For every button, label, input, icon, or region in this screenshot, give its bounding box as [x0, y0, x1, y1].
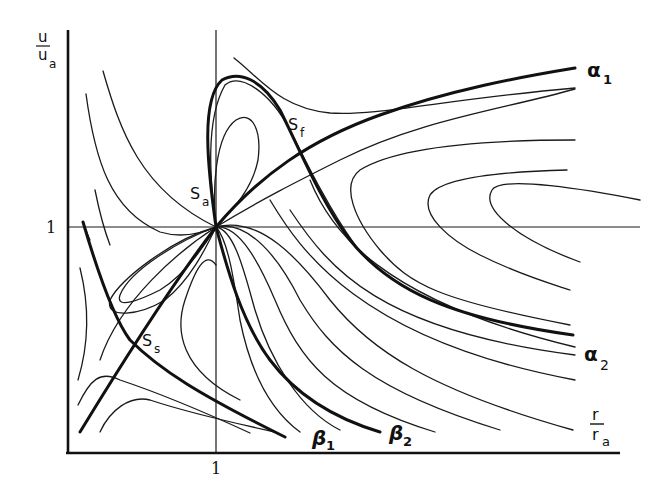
- solution-curve: [86, 94, 216, 235]
- reference-lines: [68, 30, 640, 453]
- y-axis-label-denominator: u: [38, 46, 48, 64]
- solution-curve: [216, 227, 340, 430]
- solution-curve: [103, 71, 216, 227]
- label-base: α: [587, 58, 601, 82]
- x-axis-label-numerator: r: [592, 405, 599, 424]
- x-tick-label-1: 1: [211, 459, 221, 478]
- solution-curve: [100, 227, 216, 360]
- solution-curve: [351, 140, 575, 325]
- label-subscript: 1: [603, 72, 612, 87]
- separatrices: [80, 68, 575, 437]
- label-base: β: [388, 421, 403, 445]
- label-base: β: [311, 426, 326, 450]
- curve-label-beta2: β 2: [388, 421, 412, 449]
- x-axis-label-denominator: r: [592, 425, 599, 444]
- label-subscript: f: [300, 126, 305, 140]
- separatrix-beta2: [216, 227, 380, 432]
- label-base: S: [142, 331, 152, 350]
- curve-label-alpha2: α 2: [584, 342, 609, 373]
- label-base: S: [288, 115, 298, 134]
- label-subscript: 2: [403, 434, 412, 449]
- solution-curve: [290, 210, 575, 355]
- critical-point-label-sa: S a: [190, 184, 209, 209]
- label-subscript: 2: [600, 357, 609, 373]
- separatrix-alpha1: [80, 68, 575, 432]
- x-axis-label-subscript: a: [602, 434, 610, 449]
- label-subscript: 1: [326, 438, 335, 453]
- solution-curve: [95, 190, 110, 245]
- solution-curve: [216, 227, 435, 432]
- y-tick-label-1: 1: [46, 218, 56, 237]
- thin-solution-curves: [78, 58, 640, 433]
- label-subscript: a: [202, 195, 209, 209]
- critical-point-label-sf: S f: [288, 115, 305, 140]
- y-axis-label: u u a: [36, 28, 56, 71]
- separatrix-alpha2: [208, 76, 573, 335]
- solution-curve: [214, 117, 258, 227]
- y-axis-label-subscript: a: [49, 57, 56, 71]
- curve-label-alpha1: α 1: [587, 58, 612, 87]
- phase-diagram: u u a r r a 1 1 S a S f S s α 1 α 2 β 1 …: [0, 0, 671, 499]
- solution-curve: [234, 58, 575, 113]
- label-base: S: [190, 184, 200, 203]
- solution-curve: [100, 399, 275, 432]
- solution-curve: [490, 184, 640, 262]
- y-axis-label-numerator: u: [38, 28, 48, 46]
- x-axis-label: r r a: [590, 405, 610, 449]
- label-subscript: s: [154, 342, 160, 356]
- label-base: α: [584, 342, 598, 366]
- solution-curve: [428, 170, 570, 290]
- solution-curve: [216, 227, 300, 432]
- curve-label-beta1: β 1: [311, 426, 335, 453]
- solution-curve: [78, 268, 87, 380]
